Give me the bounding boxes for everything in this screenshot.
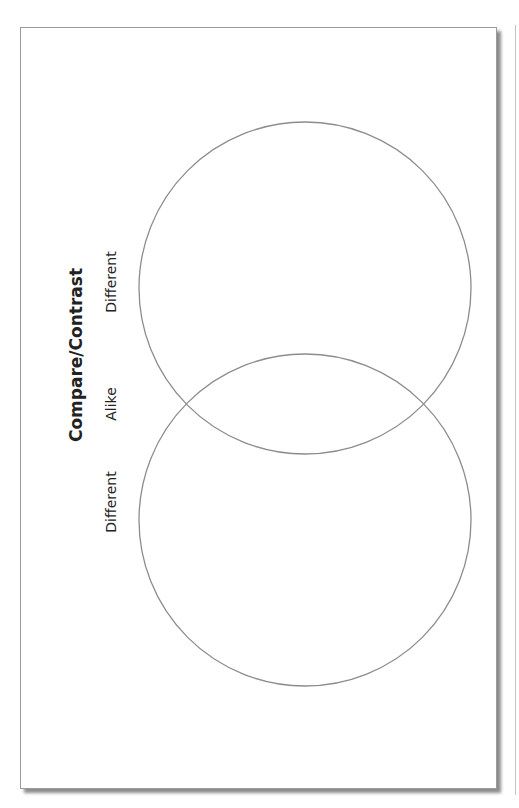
label-different-bottom: Different [103, 471, 119, 532]
venn-circle-top [139, 122, 471, 454]
venn-circle-bottom [139, 354, 471, 686]
label-alike: Alike [103, 387, 119, 421]
worksheet-title: Compare/Contrast [66, 268, 86, 442]
label-different-top: Different [103, 251, 119, 312]
